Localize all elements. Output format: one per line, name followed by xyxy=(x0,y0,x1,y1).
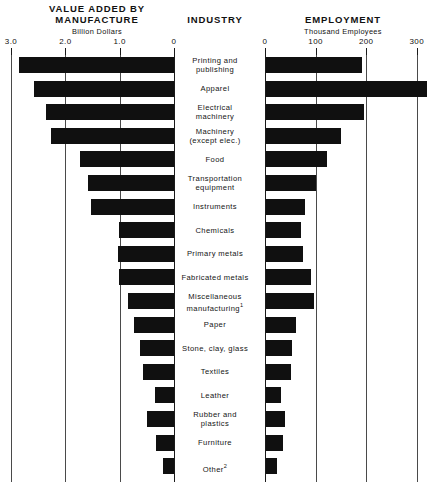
industry-label-line: Printing and xyxy=(167,56,263,65)
right-axis-tick-mark xyxy=(366,48,367,55)
industry-label: Textiles xyxy=(167,367,263,376)
left-axis-tick-label: 2.0 xyxy=(52,37,78,46)
industry-label-line: Furniture xyxy=(167,438,263,447)
industry-label-line: Paper xyxy=(167,320,263,329)
employment-bar xyxy=(266,104,364,120)
value-added-bar xyxy=(91,199,174,215)
right-axis-gridline xyxy=(366,55,367,482)
industry-label: Food xyxy=(167,155,263,164)
industry-label: Furniture xyxy=(167,438,263,447)
left-axis-tick-label: 0 xyxy=(161,37,187,46)
employment-bar xyxy=(266,246,303,262)
industry-label: Rubber andplastics xyxy=(167,410,263,428)
employment-bar xyxy=(266,222,301,238)
industry-label-line: Other2 xyxy=(167,462,263,474)
employment-bar xyxy=(266,317,296,333)
industry-label-line: Leather xyxy=(167,391,263,400)
right-axis-gridline xyxy=(417,55,418,482)
industry-label-line: machinery xyxy=(167,112,263,121)
industry-label: Stone, clay, glass xyxy=(167,344,263,353)
value-added-bar xyxy=(119,222,174,238)
industry-label: Printing andpublishing xyxy=(167,56,263,74)
value-added-bar xyxy=(46,104,174,120)
industry-label-line: publishing xyxy=(167,65,263,74)
industry-label: Machinery(except elec.) xyxy=(167,127,263,145)
employment-bar xyxy=(266,57,362,73)
industry-label-line: Fabricated metals xyxy=(167,273,263,282)
employment-bar xyxy=(266,269,311,285)
right-chart-title: EMPLOYMENT xyxy=(258,14,428,25)
industry-label: Primary metals xyxy=(167,249,263,258)
employment-bar xyxy=(266,435,283,451)
industry-label: Chemicals xyxy=(167,226,263,235)
left-chart-title-line2: MANUFACTURE xyxy=(22,14,172,25)
employment-bar xyxy=(266,340,292,356)
industry-label-line: (except elec.) xyxy=(167,136,263,145)
left-axis-tick-mark xyxy=(120,48,121,55)
value-added-bar xyxy=(19,57,174,73)
left-axis-unit-label: Billion Dollars xyxy=(22,27,172,36)
industry-label: Miscellaneousmanufacturing1 xyxy=(167,292,263,313)
value-added-bar xyxy=(34,81,174,97)
employment-bar xyxy=(266,364,291,380)
industry-label-line: plastics xyxy=(167,419,263,428)
right-axis-tick-mark xyxy=(316,48,317,55)
chart-canvas: VALUE ADDED BY MANUFACTURE INDUSTRY EMPL… xyxy=(0,0,431,488)
industry-label-line: Machinery xyxy=(167,127,263,136)
employment-bar xyxy=(266,387,281,403)
left-chart-title-line1: VALUE ADDED BY xyxy=(22,3,172,14)
employment-bar xyxy=(266,81,427,97)
value-added-bar xyxy=(118,246,174,262)
value-added-bar xyxy=(51,128,174,144)
left-axis-tick-mark xyxy=(174,48,175,55)
employment-bar xyxy=(266,151,327,167)
employment-bar xyxy=(266,293,314,309)
industry-label-line: Miscellaneous xyxy=(167,292,263,301)
left-axis-tick-label: 3.0 xyxy=(0,37,24,46)
right-axis-tick-label: 300 xyxy=(404,37,430,46)
industry-label-line: Instruments xyxy=(167,202,263,211)
right-axis-tick-mark xyxy=(265,48,266,55)
industry-label: Apparel xyxy=(167,84,263,93)
industry-label-line: Stone, clay, glass xyxy=(167,344,263,353)
right-axis-tick-mark xyxy=(417,48,418,55)
industry-label-line: Primary metals xyxy=(167,249,263,258)
right-axis-unit-label: Thousand Employees xyxy=(258,27,428,36)
industry-label: Other2 xyxy=(167,462,263,474)
industry-label: Electricalmachinery xyxy=(167,103,263,121)
industry-label-line: manufacturing1 xyxy=(167,301,263,313)
industry-label: Transportationequipment xyxy=(167,174,263,192)
industry-label-line: Rubber and xyxy=(167,410,263,419)
right-axis-tick-label: 200 xyxy=(353,37,379,46)
employment-bar xyxy=(266,199,305,215)
left-axis-tick-mark xyxy=(11,48,12,55)
left-axis-tick-mark xyxy=(65,48,66,55)
footnote-marker: 2 xyxy=(224,463,228,469)
value-added-bar xyxy=(119,269,174,285)
employment-bar xyxy=(266,458,277,474)
value-added-bar xyxy=(80,151,174,167)
value-added-bar xyxy=(88,175,174,191)
right-axis-tick-label: 0 xyxy=(252,37,278,46)
industry-label-line: Transportation xyxy=(167,174,263,183)
right-axis-tick-label: 100 xyxy=(303,37,329,46)
left-chart-title: VALUE ADDED BY MANUFACTURE xyxy=(22,3,172,25)
industry-label-line: Apparel xyxy=(167,84,263,93)
industry-label: Fabricated metals xyxy=(167,273,263,282)
employment-bar xyxy=(266,175,316,191)
industry-label-line: Electrical xyxy=(167,103,263,112)
footnote-marker: 1 xyxy=(240,302,244,308)
left-axis-tick-label: 1.0 xyxy=(107,37,133,46)
left-axis-gridline xyxy=(11,55,12,482)
industry-label-line: Textiles xyxy=(167,367,263,376)
industry-label: Instruments xyxy=(167,202,263,211)
industry-label-line: Food xyxy=(167,155,263,164)
industry-column-title: INDUSTRY xyxy=(175,14,255,25)
industry-label: Leather xyxy=(167,391,263,400)
industry-label-line: Chemicals xyxy=(167,226,263,235)
industry-label: Paper xyxy=(167,320,263,329)
industry-label-line: equipment xyxy=(167,183,263,192)
employment-bar xyxy=(266,128,341,144)
employment-bar xyxy=(266,411,285,427)
